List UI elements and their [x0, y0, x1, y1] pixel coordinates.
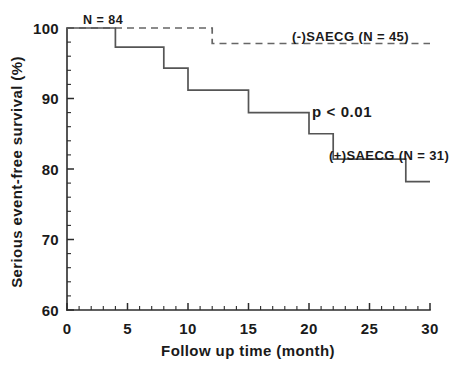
x-axis-title: Follow up time (month) [161, 342, 335, 359]
y-tick-label: 60 [42, 302, 59, 319]
y-tick-label: 80 [42, 161, 59, 178]
y-tick-label: 100 [33, 20, 59, 37]
x-tick-label: 15 [240, 320, 257, 337]
x-tick-label: 0 [63, 320, 72, 337]
x-tick-label: 30 [421, 320, 438, 337]
p-value-annotation: p < 0.01 [312, 103, 372, 120]
total-n-annotation: N = 84 [83, 13, 123, 27]
kaplan-meier-plot: 60708090100 051015202530 Follow up time … [0, 0, 455, 369]
x-tick-label: 5 [123, 320, 132, 337]
x-tick-label: 25 [361, 320, 378, 337]
x-tick-label: 10 [179, 320, 196, 337]
y-axis-title: Serious event-free survival (%) [8, 56, 25, 288]
plot-background [0, 0, 455, 369]
survival-chart-figure: 60708090100 051015202530 Follow up time … [0, 0, 455, 369]
series-label-positive-saecg: (+)SAECG (N = 31) [329, 148, 449, 163]
series-label-negative-saecg: (-)SAECG (N = 45) [292, 29, 409, 44]
y-tick-label: 90 [42, 90, 59, 107]
x-tick-label: 20 [300, 320, 317, 337]
y-tick-label: 70 [42, 231, 59, 248]
